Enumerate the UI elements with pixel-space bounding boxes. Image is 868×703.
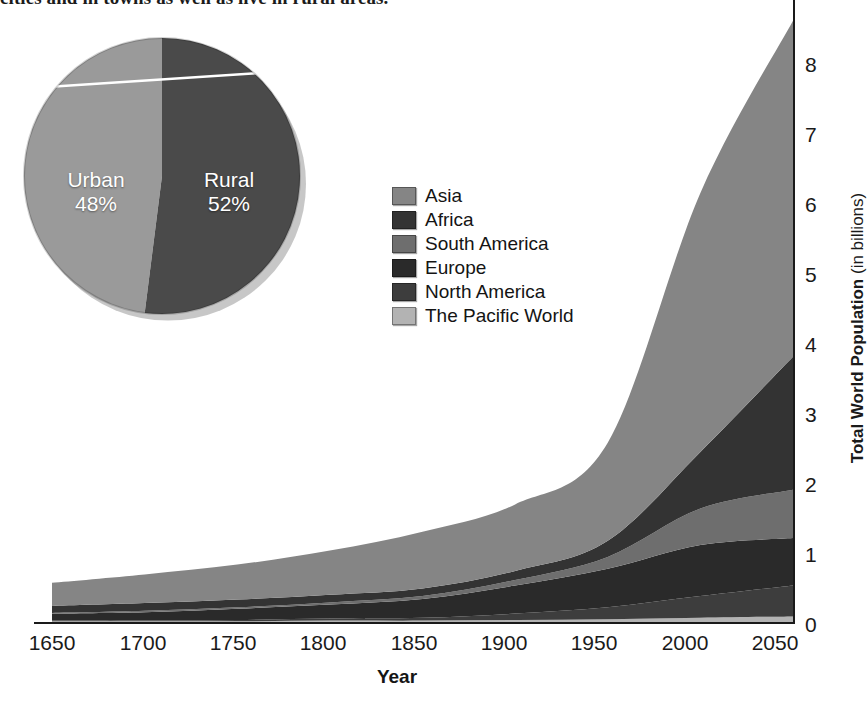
pie-label-urban-value: 48% — [36, 192, 156, 216]
x-tick-1800: 1800 — [283, 632, 363, 653]
y-tick-5: 5 — [805, 264, 831, 285]
x-axis-line — [34, 622, 795, 624]
pie-label-rural-value: 52% — [174, 192, 284, 216]
x-axis-title: Year — [0, 666, 794, 688]
legend-swatch-icon-africa — [392, 211, 416, 229]
pie-label-rural-name: Rural — [204, 168, 254, 191]
y-axis-title-main: Total World Population — [848, 279, 867, 463]
x-tick-1650: 1650 — [12, 632, 92, 653]
x-tick-1950: 1950 — [554, 632, 634, 653]
legend-item-asia: Asia — [392, 184, 574, 207]
x-tick-1850: 1850 — [374, 632, 454, 653]
y-tick-2: 2 — [805, 474, 831, 495]
y-tick-1: 1 — [805, 544, 831, 565]
legend-item-south-america: South America — [392, 232, 574, 255]
x-tick-2000: 2000 — [645, 632, 725, 653]
x-tick-1700: 1700 — [103, 632, 183, 653]
legend-item-africa: Africa — [392, 208, 574, 231]
legend-swatch-icon-asia — [392, 187, 416, 205]
legend-swatch-icon-south-america — [392, 235, 416, 253]
legend-swatch-icon-north-america — [392, 283, 416, 301]
x-tick-1900: 1900 — [464, 632, 544, 653]
legend: Asia Africa South America Europe North A… — [392, 184, 574, 328]
legend-label-asia: Asia — [425, 186, 462, 205]
legend-label-europe: Europe — [425, 258, 486, 277]
x-tick-1750: 1750 — [193, 632, 273, 653]
y-tick-7: 7 — [805, 124, 831, 145]
y-tick-6: 6 — [805, 194, 831, 215]
y-tick-3: 3 — [805, 404, 831, 425]
pie-chart-inset: Urban 48% Rural 52% — [14, 28, 324, 328]
legend-label-africa: Africa — [425, 210, 474, 229]
y-axis-title-unit: (in billions) — [848, 193, 867, 279]
legend-label-north-america: North America — [425, 282, 545, 301]
legend-label-south-america: South America — [425, 234, 549, 253]
y-axis-line — [793, 0, 795, 624]
legend-item-pacific-world: The Pacific World — [392, 304, 574, 327]
legend-swatch-icon-europe — [392, 259, 416, 277]
pie-label-urban-name: Urban — [67, 168, 124, 191]
legend-item-north-america: North America — [392, 280, 574, 303]
pie-label-rural: Rural 52% — [174, 168, 284, 216]
pie-label-urban: Urban 48% — [36, 168, 156, 216]
x-tick-2050: 2050 — [735, 632, 815, 653]
legend-label-pacific-world: The Pacific World — [425, 306, 574, 325]
y-axis-title: Total World Population (in billions) — [848, 193, 868, 463]
legend-item-europe: Europe — [392, 256, 574, 279]
y-tick-4: 4 — [805, 334, 831, 355]
y-tick-8: 8 — [805, 54, 831, 75]
legend-swatch-icon-pacific-world — [392, 307, 416, 325]
